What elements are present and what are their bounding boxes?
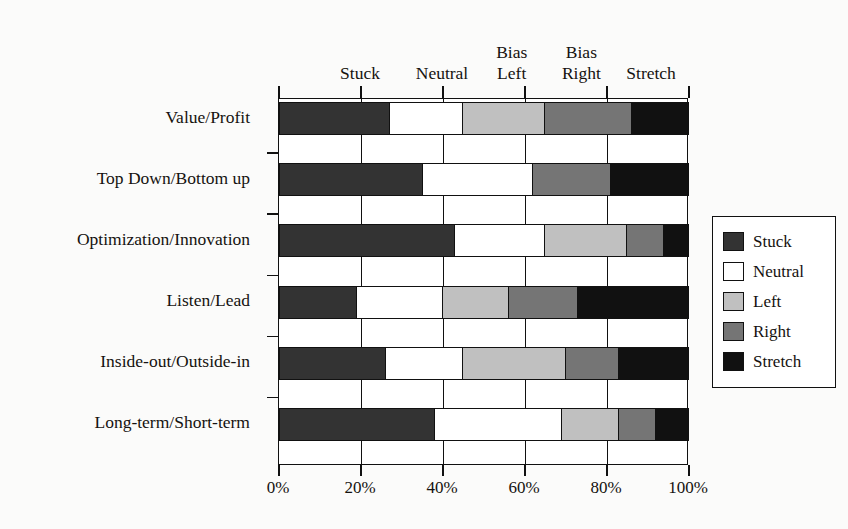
y-tick	[267, 152, 278, 154]
bar-segment-neutral	[423, 163, 534, 196]
bar-segment-stuck	[279, 224, 455, 257]
x-tick-bottom	[688, 465, 689, 476]
bar-segment-right	[619, 408, 656, 441]
x-tick-bottom	[360, 465, 361, 476]
bar-segment-left	[562, 408, 619, 441]
bar-segment-neutral	[435, 408, 562, 441]
bar-segment-stretch	[664, 224, 689, 257]
legend-swatch-neutral	[723, 262, 744, 281]
bar-segment-left	[463, 102, 545, 135]
bar-segment-stretch	[656, 408, 689, 441]
category-axis-labels: Value/ProfitTop Down/Bottom upOptimizati…	[0, 98, 266, 465]
bar-segment-stuck	[279, 163, 423, 196]
legend-item-left: Left	[723, 286, 835, 316]
legend-item-stuck: Stuck	[723, 226, 835, 256]
bar-segment-stretch	[632, 102, 689, 135]
y-tick	[267, 397, 278, 399]
category-label-long-term-short-term: Long-term/Short-term	[94, 412, 266, 433]
bar-segment-neutral	[390, 102, 464, 135]
x-tick-label: 0%	[243, 478, 313, 498]
category-label-inside-out-outside-in: Inside-out/Outside-in	[100, 351, 266, 372]
bar-segment-stretch	[611, 163, 689, 196]
bar-segment-right	[545, 102, 631, 135]
legend-swatch-left	[723, 292, 744, 311]
chart-legend: StuckNeutralLeftRightStretch	[712, 216, 836, 388]
category-label-listen-lead: Listen/Lead	[166, 290, 266, 311]
legend-swatch-stuck	[723, 232, 744, 251]
bar-segment-stuck	[279, 286, 357, 319]
x-tick-bottom	[442, 465, 443, 476]
column-header-stretch: Stretch	[596, 63, 706, 84]
bar-segment-stretch	[619, 347, 689, 380]
bar-segment-right	[627, 224, 664, 257]
bar-segment-right	[509, 286, 579, 319]
category-label-top-down-bottom-up: Top Down/Bottom up	[97, 168, 266, 189]
bar-row	[279, 163, 689, 196]
bar-segment-right	[533, 163, 611, 196]
bar-segment-left	[545, 224, 627, 257]
y-tick	[267, 213, 278, 215]
bar-row	[279, 408, 689, 441]
legend-label: Stuck	[753, 233, 792, 250]
x-tick-label: 80%	[571, 478, 641, 498]
bar-segment-stuck	[279, 347, 386, 380]
bar-segment-left	[463, 347, 566, 380]
category-label-optimization-innovation: Optimization/Innovation	[77, 229, 266, 250]
column-headers: StuckNeutralBias LeftBias RightStretch	[278, 14, 688, 84]
legend-item-stretch: Stretch	[723, 346, 835, 376]
legend-swatch-stretch	[723, 352, 744, 371]
bar-segment-right	[566, 347, 619, 380]
y-tick	[267, 275, 278, 277]
x-tick-top	[524, 86, 525, 98]
x-tick-top	[360, 86, 361, 98]
bar-row	[279, 347, 689, 380]
bar-segment-neutral	[386, 347, 464, 380]
bar-segment-stretch	[578, 286, 689, 319]
x-axis-labels: 0%20%40%60%80%100%	[278, 478, 688, 504]
x-tick-top	[278, 86, 279, 98]
bar-segment-neutral	[357, 286, 443, 319]
legend-label: Left	[753, 293, 781, 310]
stacked-bar-chart: StuckNeutralBias LeftBias RightStretch V…	[0, 0, 848, 529]
x-tick-top	[688, 86, 689, 98]
legend-label: Right	[753, 323, 791, 340]
legend-item-right: Right	[723, 316, 835, 346]
bar-row	[279, 286, 689, 319]
x-tick-bottom	[524, 465, 525, 476]
x-tick-label: 20%	[325, 478, 395, 498]
x-tick-top	[606, 86, 607, 98]
bar-segment-stuck	[279, 102, 390, 135]
y-tick	[267, 336, 278, 338]
legend-item-neutral: Neutral	[723, 256, 835, 286]
bar-row	[279, 224, 689, 257]
bar-segment-neutral	[455, 224, 545, 257]
legend-swatch-right	[723, 322, 744, 341]
legend-label: Neutral	[753, 263, 804, 280]
x-tick-bottom	[278, 465, 279, 476]
bar-row	[279, 102, 689, 135]
x-tick-label: 60%	[489, 478, 559, 498]
legend-label: Stretch	[753, 353, 801, 370]
category-label-value-profit: Value/Profit	[165, 107, 266, 128]
x-tick-label: 100%	[653, 478, 723, 498]
x-tick-label: 40%	[407, 478, 477, 498]
bar-segment-stuck	[279, 408, 435, 441]
x-tick-bottom	[606, 465, 607, 476]
plot-area	[278, 98, 688, 465]
x-tick-top	[442, 86, 443, 98]
bar-segment-left	[443, 286, 509, 319]
